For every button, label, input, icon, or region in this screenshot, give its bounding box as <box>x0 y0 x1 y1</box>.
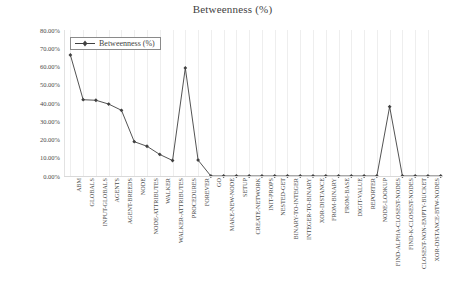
x-axis-tick-label: CLOSEST-NON-EMPTY-BUCKET <box>418 178 425 269</box>
x-axis-tick-text: BINARY-TO-INTEGER <box>292 178 299 239</box>
x-axis-tick-text: INIT-PROPS <box>267 178 274 211</box>
x-axis-tick-text: NODE-LOOKUP <box>381 178 388 222</box>
x-axis-tick-text: DIGIT-VALUE <box>356 178 363 217</box>
x-axis-tick-text: INPUT-GLOBALS <box>101 178 108 226</box>
x-axis-tick-label: WALKER-ATTRIBUTES <box>175 178 182 243</box>
x-axis-tick-text: GLOBALS <box>88 178 95 207</box>
y-axis: 80.00%70.00%60.00%50.00%40.00%30.00%20.0… <box>14 24 60 182</box>
data-point-marker <box>171 159 175 163</box>
x-axis-tick-text: MAKE-NEW-NODE <box>228 178 235 231</box>
x-axis-tick-label: FROM-BASE <box>341 178 348 213</box>
x-axis-tick-label: BINARY-TO-INTEGER <box>290 178 297 239</box>
x-axis-tick-label: FOREVER <box>201 178 208 206</box>
y-axis-tick-label: 20.00% <box>14 136 60 143</box>
x-axis-tick-text: WALKER <box>164 178 171 204</box>
x-axis-tick-label: FIND-K-CLOSEST-NODES <box>405 178 412 250</box>
y-axis-tick-label: 60.00% <box>14 63 60 70</box>
x-axis: ABMGLOBALSINPUT-GLOBALSAGENTSAGENT-BREED… <box>64 178 442 304</box>
chart-title: Betweenness (%) <box>0 3 465 15</box>
data-point-marker <box>107 102 111 106</box>
x-axis-tick-label: NODE-LOOKUP <box>379 178 386 222</box>
x-axis-tick-text: GO <box>215 178 222 187</box>
y-axis-tick-label: 30.00% <box>14 118 60 125</box>
series-line <box>70 55 440 176</box>
x-axis-tick-text: NODE <box>139 178 146 195</box>
x-axis-tick-label: FIND-ALPHA-CLOSEST-NODES <box>392 178 399 266</box>
x-axis-tick-text: FROM-BASE <box>343 178 350 213</box>
y-axis-tick-label: 80.00% <box>14 27 60 34</box>
data-point-marker <box>132 140 136 144</box>
y-axis-tick-label: 10.00% <box>14 154 60 161</box>
x-axis-tick-text: NODE-ATTRIBUTES <box>152 178 159 234</box>
x-axis-tick-label: WALKER <box>162 178 169 204</box>
x-axis-tick-text: NESTED-GET <box>279 178 286 216</box>
x-axis-tick-label: NODE-ATTRIBUTES <box>150 178 157 234</box>
x-axis-tick-label: MAKE-NEW-NODE <box>226 178 233 231</box>
x-axis-tick-label: XOR-DISTANCE <box>316 178 323 223</box>
legend-line-marker-icon <box>75 39 95 48</box>
x-axis-tick-text: XOR-DISTANCE-BTW-NODES <box>433 178 440 261</box>
x-axis-tick-text: WALKER-ATTRIBUTES <box>177 178 184 243</box>
x-axis-tick-text: INTEGER-TO-BINARY <box>305 178 312 240</box>
x-axis-tick-label: NODE <box>137 178 144 195</box>
x-axis-tick-label: INPUT-GLOBALS <box>99 178 106 226</box>
x-axis-tick-text: FOREVER <box>203 178 210 206</box>
x-axis-tick-label: AGENTS <box>111 178 118 202</box>
x-axis-tick-label: INTEGER-TO-BINARY <box>303 178 310 240</box>
plot-area <box>64 30 442 176</box>
x-axis-tick-label: CREATE-NETWORK <box>252 178 259 234</box>
x-axis-tick-label: DIGIT-VALUE <box>354 178 361 217</box>
x-axis-tick-label: ABM <box>73 178 80 192</box>
data-point-marker <box>388 105 392 109</box>
x-axis-tick-text: SETUP <box>241 178 248 197</box>
x-axis-tick-label: REPORTER <box>367 178 374 209</box>
x-axis-tick-text: PROCEDURES <box>190 178 197 218</box>
x-axis-tick-text: AGENT-BREEDS <box>126 178 133 224</box>
x-axis-tick-label: SETUP <box>239 178 246 197</box>
betweenness-line-chart: Betweenness (%) 80.00%70.00%60.00%50.00%… <box>0 0 465 306</box>
x-axis-tick-text: ABM <box>75 178 82 192</box>
x-axis-tick-text: CREATE-NETWORK <box>254 178 261 234</box>
x-axis-tick-text: FIND-K-CLOSEST-NODES <box>407 178 414 250</box>
y-axis-tick-label: 0.00% <box>14 173 60 180</box>
data-point-marker <box>183 66 187 70</box>
x-axis-tick-label: INIT-PROPS <box>265 178 272 211</box>
data-point-marker <box>68 53 72 57</box>
series-betweenness <box>64 30 442 176</box>
x-axis-tick-label: NESTED-GET <box>277 178 284 216</box>
x-axis-tick-label: XOR-DISTANCE-BTW-NODES <box>431 178 438 261</box>
y-axis-tick-label: 40.00% <box>14 100 60 107</box>
y-axis-tick-label: 50.00% <box>14 81 60 88</box>
x-axis-tick-text: XOR-DISTANCE <box>318 178 325 223</box>
x-axis-tick-label: GO <box>213 178 220 187</box>
data-point-marker <box>94 98 98 102</box>
x-axis-tick-label: AGENT-BREEDS <box>124 178 131 224</box>
x-axis-tick-text: FIND-ALPHA-CLOSEST-NODES <box>394 178 401 266</box>
x-axis-tick-text: REPORTER <box>369 178 376 209</box>
x-axis-line <box>64 176 442 177</box>
chart-legend: Betweenness (%) <box>70 37 161 50</box>
x-axis-tick-text: AGENTS <box>113 178 120 202</box>
x-axis-tick-label: FROM-BINARY <box>328 178 335 221</box>
x-axis-tick-text: CLOSEST-NON-EMPTY-BUCKET <box>420 178 427 269</box>
x-axis-tick-label: PROCEDURES <box>188 178 195 218</box>
legend-label: Betweenness (%) <box>99 39 155 48</box>
y-axis-tick-label: 70.00% <box>14 45 60 52</box>
data-point-marker <box>81 98 85 102</box>
x-axis-tick-text: FROM-BINARY <box>330 178 337 221</box>
x-axis-tick-label: GLOBALS <box>86 178 93 207</box>
data-point-marker <box>120 108 124 112</box>
